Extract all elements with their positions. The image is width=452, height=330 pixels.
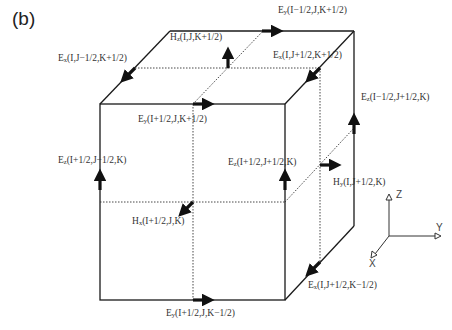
label-ex-left-top: Ex(I,J−1/2,K+1/2) bbox=[58, 53, 127, 65]
z-axis-arrowhead-icon bbox=[386, 194, 392, 200]
label-hy-right: Hy(I,J+1/2,K) bbox=[333, 177, 385, 189]
label-ez-front-left: Ez(I+1/2,J−1/2,K) bbox=[58, 155, 127, 167]
field-arrows bbox=[100, 31, 354, 300]
arrow-hx-front bbox=[185, 202, 193, 210]
label-hz-top: Hz(I,J,K+1/2) bbox=[170, 32, 222, 44]
arrow-ex-right-bot bbox=[312, 262, 320, 270]
label-ey-front-top: Ey(I+1/2,J,K+1/2) bbox=[138, 114, 207, 126]
axes-triad bbox=[371, 194, 441, 258]
label-ex-right-bot: Ex(I,J+1/2,K−1/2) bbox=[308, 280, 377, 292]
arrow-ex-right-top bbox=[312, 68, 320, 76]
label-hx-front: Hx(I+1/2,J,K) bbox=[132, 216, 184, 228]
axis-label-x: X bbox=[369, 258, 376, 269]
axis-label-y: Y bbox=[436, 222, 443, 233]
label-ey-back-top: Ey(I−1/2,J,K+1/2) bbox=[278, 5, 347, 17]
yee-cell-diagram: (b) bbox=[0, 0, 452, 330]
arrow-ex-left-top bbox=[127, 68, 135, 76]
y-axis-arrowhead-icon bbox=[435, 233, 441, 239]
label-ex-right-top: Ex(I,J+1/2,K+1/2) bbox=[273, 50, 342, 62]
axis-label-z: Z bbox=[396, 189, 402, 200]
label-ey-front-bot: Ey(I+1/2,J,K−1/2) bbox=[166, 308, 235, 320]
label-ez-front-right: Ez(I+1/2,J+1/2,K) bbox=[228, 157, 297, 169]
label-ez-back-right: Ez(I−1/2,J+1/2,K) bbox=[361, 92, 430, 104]
